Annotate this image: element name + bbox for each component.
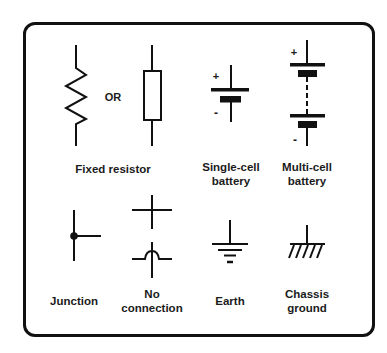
junction-icon [70,210,101,261]
label-line: Earth [215,294,244,308]
wire-crossing-icon [132,195,172,229]
label-line: No [121,287,182,301]
label-junction: Junction [50,294,98,308]
wire-hop-icon [132,242,172,278]
label-fixed-resistor: Fixed resistor [75,162,150,176]
label-no-connection: No connection [121,287,182,315]
resistor-or-text: OR [105,91,122,103]
label-single-cell-battery: Single-cell battery [202,160,260,188]
resistor-zigzag-icon [66,45,86,146]
single-cell-battery-icon: + - [211,65,249,122]
label-line: battery [202,174,260,188]
label-line: Multi-cell [282,160,332,174]
label-line: Junction [50,294,98,308]
positive-terminal-sign: + [213,70,219,82]
label-line: battery [282,174,332,188]
multi-cell-battery-icon: + - [290,40,325,147]
label-multi-cell-battery: Multi-cell battery [282,160,332,188]
label-earth: Earth [215,294,244,308]
label-line: connection [121,301,182,315]
earth-ground-icon [212,220,248,262]
positive-terminal-sign: + [291,46,297,58]
negative-terminal-sign: - [293,133,297,147]
negative-terminal-sign: - [214,106,218,120]
label-line: ground [285,301,329,315]
label-chassis-ground: Chassis ground [285,287,329,315]
label-line: Fixed resistor [75,162,150,176]
label-line: Chassis [285,287,329,301]
chassis-ground-icon [289,225,325,258]
label-line: Single-cell [202,160,260,174]
resistor-rectangle-icon [144,45,161,146]
